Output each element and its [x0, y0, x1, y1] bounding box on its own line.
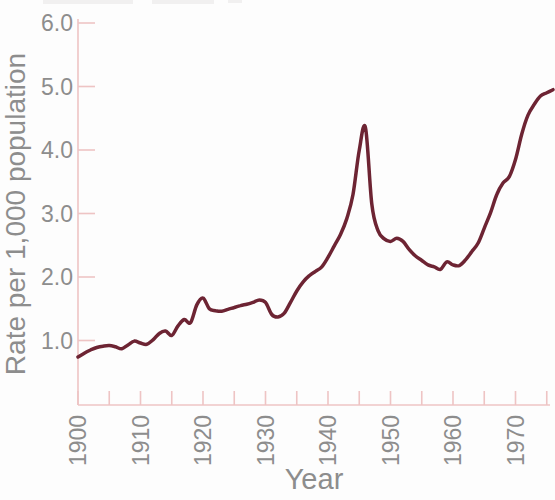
divorce-rate-line-chart: 6.05.04.03.02.01.01900191019201930194019…	[0, 0, 555, 500]
x-tick-label: 1940	[315, 415, 341, 466]
x-axis-title: Year	[285, 463, 344, 495]
x-tick-label: 1960	[440, 415, 466, 466]
y-tick-label: 2.0	[41, 264, 73, 290]
cropped-text-artifact	[43, 0, 133, 4]
x-tick-label: 1910	[128, 415, 154, 466]
x-tick-label: 1950	[378, 415, 404, 466]
y-tick-label: 5.0	[41, 74, 73, 100]
y-tick-label: 4.0	[41, 137, 73, 163]
x-tick-label: 1970	[503, 415, 529, 466]
y-axis-title: Rate per 1,000 population	[0, 53, 31, 375]
rate-curve	[78, 90, 553, 357]
y-tick-label: 3.0	[41, 201, 73, 227]
cropped-text-artifact	[152, 0, 214, 4]
y-tick-label: 6.0	[41, 10, 73, 36]
x-tick-label: 1930	[253, 415, 279, 466]
y-tick-label: 1.0	[41, 328, 73, 354]
x-tick-label: 1920	[190, 415, 216, 466]
figure: 6.05.04.03.02.01.01900191019201930194019…	[0, 0, 555, 500]
x-tick-label: 1900	[65, 415, 91, 466]
cropped-text-artifact	[228, 0, 242, 3]
